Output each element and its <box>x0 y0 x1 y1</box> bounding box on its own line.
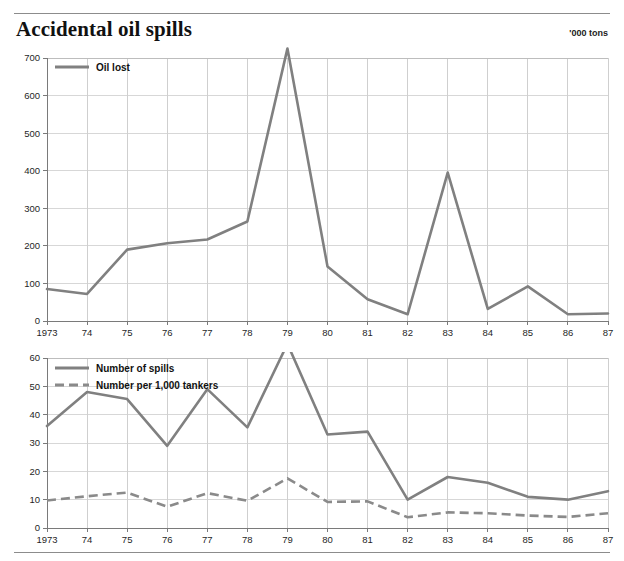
y-axis-tick-label: 0 <box>35 315 40 326</box>
x-axis-tick-label: 86 <box>563 534 574 545</box>
legend-label: Number of spills <box>96 363 175 374</box>
y-axis-tick-label: 60 <box>29 352 40 363</box>
legend-label: Number per 1,000 tankers <box>96 380 219 391</box>
y-axis-tick-label: 0 <box>35 522 40 533</box>
x-axis-tick-label: 82 <box>402 327 413 338</box>
x-axis-tick-label: 80 <box>322 534 333 545</box>
x-axis-tick-label: 75 <box>122 534 133 545</box>
y-axis-tick-label: 600 <box>24 90 40 101</box>
x-axis-tick-label: 77 <box>202 327 213 338</box>
units-note: '000 tons <box>569 28 608 38</box>
x-axis-tick-label: 74 <box>82 534 93 545</box>
y-axis-tick-label: 40 <box>29 409 40 420</box>
x-axis-tick-label: 82 <box>402 534 413 545</box>
x-axis-tick-label: 83 <box>442 327 453 338</box>
x-axis-tick-label: 87 <box>603 534 614 545</box>
number-of-spills-chart-svg: 0102030405060197374757677787980818283848… <box>0 352 624 548</box>
x-axis-tick-label: 76 <box>162 327 173 338</box>
page-title: Accidental oil spills <box>16 17 192 42</box>
y-axis-tick-label: 500 <box>24 128 40 139</box>
y-axis-tick-label: 30 <box>29 437 40 448</box>
number-of-spills-chart: 0102030405060197374757677787980818283848… <box>0 352 624 548</box>
x-axis-tick-label: 74 <box>82 327 93 338</box>
x-axis-tick-label: 81 <box>362 327 373 338</box>
x-axis-tick-label: 85 <box>523 327 534 338</box>
x-axis-tick-label: 84 <box>482 534 493 545</box>
legend-label: Oil lost <box>96 62 131 73</box>
y-axis-tick-label: 400 <box>24 165 40 176</box>
x-axis-tick-label: 83 <box>442 534 453 545</box>
x-axis-tick-label: 78 <box>242 327 253 338</box>
x-axis-tick-label: 1973 <box>36 534 57 545</box>
y-axis-tick-label: 100 <box>24 278 40 289</box>
y-axis-tick-label: 20 <box>29 466 40 477</box>
x-axis-tick-label: 79 <box>282 534 293 545</box>
oil-lost-chart-svg: 0100200300400500600700197374757677787980… <box>0 44 624 340</box>
y-axis-tick-label: 300 <box>24 203 40 214</box>
x-axis-tick-label: 80 <box>322 327 333 338</box>
x-axis-tick-label: 85 <box>523 534 534 545</box>
x-axis-tick-label: 75 <box>122 327 133 338</box>
chart-page: Accidental oil spills '000 tons 01002003… <box>0 0 624 561</box>
y-axis-tick-label: 50 <box>29 381 40 392</box>
x-axis-tick-label: 1973 <box>36 327 57 338</box>
x-axis-tick-label: 76 <box>162 534 173 545</box>
x-axis-tick-label: 81 <box>362 534 373 545</box>
top-divider-rule <box>14 13 610 14</box>
x-axis-tick-label: 84 <box>482 327 493 338</box>
x-axis-tick-label: 78 <box>242 534 253 545</box>
x-axis-tick-label: 79 <box>282 327 293 338</box>
y-axis-tick-label: 10 <box>29 494 40 505</box>
x-axis-tick-label: 87 <box>603 327 614 338</box>
oil-lost-chart: 0100200300400500600700197374757677787980… <box>0 44 624 340</box>
x-axis-tick-label: 77 <box>202 534 213 545</box>
bottom-divider-rule <box>14 552 610 553</box>
y-axis-tick-label: 200 <box>24 240 40 251</box>
y-axis-tick-label: 700 <box>24 52 40 63</box>
x-axis-tick-label: 86 <box>563 327 574 338</box>
